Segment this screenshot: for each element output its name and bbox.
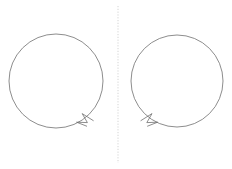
figure-background — [0, 0, 232, 169]
figure-canvas — [0, 0, 232, 169]
mirrored-circles-diagram — [0, 0, 232, 169]
